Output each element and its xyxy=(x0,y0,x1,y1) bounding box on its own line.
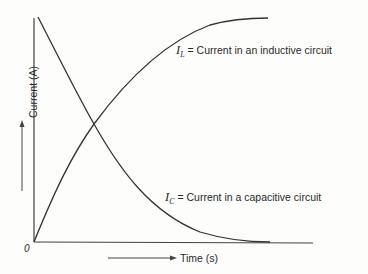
x-axis-arrow-icon xyxy=(108,256,177,261)
ic-subscript: C xyxy=(169,197,174,206)
x-axis xyxy=(34,242,313,243)
ic-annotation: IC = Current in a capacitive circuit xyxy=(165,191,321,208)
chart-figure: Current (A) 0 Time (s) IL = Current in a… xyxy=(0,0,368,274)
y-axis-label: Current (A) xyxy=(27,62,39,122)
origin-label: 0 xyxy=(24,243,30,254)
il-text: = Current in an inductive circuit xyxy=(188,44,332,56)
x-axis-label: Time (s) xyxy=(180,252,218,264)
chart-canvas xyxy=(0,0,368,274)
ic-text: = Current in a capacitive circuit xyxy=(177,191,321,203)
il-annotation: IL = Current in an inductive circuit xyxy=(176,44,332,61)
y-axis-arrow-icon xyxy=(20,120,25,191)
il-subscript: L xyxy=(180,50,184,59)
